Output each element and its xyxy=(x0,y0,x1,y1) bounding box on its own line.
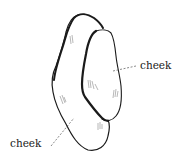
cheek-label-right: cheek xyxy=(140,60,171,71)
seed-drawing xyxy=(0,0,184,159)
front-cheek-inner-edge xyxy=(82,31,108,121)
cheek-label-left: cheek xyxy=(10,138,41,149)
leader-line-right xyxy=(113,66,136,71)
front-cheek-outline xyxy=(96,30,121,121)
back-cheek-top-edge xyxy=(54,14,103,80)
back-cheek-outline xyxy=(52,15,109,150)
texture-hatching xyxy=(60,35,118,130)
